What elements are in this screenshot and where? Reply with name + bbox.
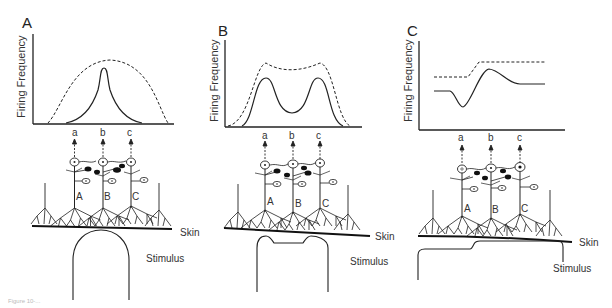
y-axis-label: Firing Frequency [15,35,27,118]
tick-a: a [458,132,464,143]
stimulus-label: Stimulus [553,263,591,274]
tick-a: a [262,130,268,141]
tick-c: c [127,127,132,138]
stimulus-label: Stimulus [350,256,388,267]
output-arrows [460,145,522,164]
dashed-curve [48,60,168,123]
panel-letter-b: B [218,22,228,39]
panel-a: A Firing Frequency a b c [15,14,199,300]
neuron-network [419,163,562,237]
y-axis-label: Firing Frequency [402,39,414,122]
stimulus-shape [257,236,328,292]
panel-b: B Firing Frequency a b c [208,22,394,292]
tick-c: c [517,132,522,143]
neuron-label-c: C [132,191,139,202]
tick-c: c [316,130,321,141]
neuron-label-b: B [295,198,302,209]
solid-curve [434,69,545,107]
y-axis-label: Firing Frequency [208,39,220,122]
neuron-label-a: A [76,191,83,202]
lateral-inhibition-figure: A Firing Frequency a b c [0,0,612,308]
figure-caption: Figure 10-... [8,298,40,304]
panel-c: C Firing Frequency a b c [402,22,598,280]
output-arrows [263,141,322,160]
tick-b: b [488,132,494,143]
dashed-curve [228,63,350,126]
skin-label: Skin [375,231,394,242]
skin-line [32,226,172,229]
tick-a: a [72,127,78,138]
neuron-label-a: A [267,196,274,207]
skin-label: Skin [180,227,199,238]
neuron-label-a: A [464,203,471,214]
skin-label: Skin [579,237,598,248]
output-arrows [73,139,134,157]
panel-letter-a: A [22,14,32,31]
panel-letter-c: C [407,22,418,39]
neuron-label-c: C [322,198,329,209]
tick-b: b [289,130,295,141]
neuron-label-b: B [492,204,499,215]
stimulus-shape [418,241,563,280]
neuron-label-c: C [521,203,528,214]
solid-curve [242,78,343,126]
neuron-network [224,159,360,230]
neuron-network [31,158,171,226]
stimulus-label: Stimulus [146,253,184,264]
tick-b: b [100,127,106,138]
stimulus-shape [73,230,129,300]
neuron-label-b: B [104,191,111,202]
